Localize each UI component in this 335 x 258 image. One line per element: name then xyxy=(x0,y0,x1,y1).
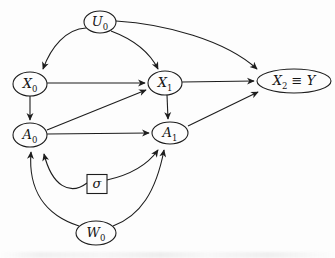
node-w0: W0 xyxy=(76,221,116,245)
edge-sigma-to-a1 xyxy=(107,150,158,180)
node-a1: A1 xyxy=(152,122,188,144)
nodes-layer: U0X0X1X2 ≡ YA0A1σW0 xyxy=(13,11,331,245)
edge-u0-to-x1 xyxy=(111,31,158,69)
node-sigma: σ xyxy=(87,175,107,194)
node-sigma-label: σ xyxy=(93,176,103,191)
edge-sigma-to-a0 xyxy=(44,154,87,189)
node-x0: X0 xyxy=(13,72,47,96)
edge-w0-to-a1 xyxy=(113,150,164,226)
edges-layer xyxy=(30,21,258,226)
node-u0: U0 xyxy=(84,11,116,33)
bottom-crop-artifact xyxy=(0,252,335,258)
node-x2y: X2 ≡ Y xyxy=(257,69,331,93)
edge-a0-to-x1 xyxy=(47,90,146,130)
edge-a0-to-a1 xyxy=(47,133,149,134)
node-a0: A0 xyxy=(13,123,47,147)
edge-x1-to-a1 xyxy=(167,95,168,119)
edge-x1-to-x2y xyxy=(182,81,254,82)
dag-svg: U0X0X1X2 ≡ YA0A1σW0 xyxy=(0,0,335,258)
figure-canvas: U0X0X1X2 ≡ YA0A1σW0 xyxy=(0,0,335,258)
edge-a1-to-x2y xyxy=(188,92,258,126)
node-x2y-label: X2 ≡ Y xyxy=(272,73,317,91)
node-x1: X1 xyxy=(148,71,182,95)
edge-u0-to-x0 xyxy=(43,28,86,69)
